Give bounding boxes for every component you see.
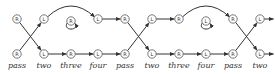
- column-label: pass: [224, 61, 242, 70]
- arc-edge: [47, 6, 94, 17]
- column-label: four: [89, 61, 108, 70]
- top-node: L: [148, 15, 156, 23]
- column-label: two: [145, 61, 160, 70]
- svg-text:R: R: [231, 51, 235, 57]
- bottom-node: R: [121, 50, 129, 58]
- svg-text:L: L: [43, 51, 46, 57]
- top-node: R: [121, 15, 129, 23]
- edges: [20, 6, 274, 54]
- svg-text:L: L: [151, 51, 154, 57]
- svg-text:R: R: [177, 16, 181, 22]
- svg-text:L: L: [205, 18, 208, 24]
- top-node: L: [94, 15, 102, 23]
- bottom-node: L: [202, 50, 210, 58]
- svg-text:L: L: [97, 16, 100, 22]
- svg-text:R: R: [69, 18, 73, 24]
- self-loop-node: L: [202, 17, 210, 25]
- svg-text:R: R: [69, 51, 73, 57]
- svg-text:R: R: [123, 16, 127, 22]
- self-loop-node: R: [67, 17, 75, 25]
- bottom-node: R: [13, 50, 21, 58]
- bottom-node: L: [148, 50, 156, 58]
- column-label: pass: [116, 61, 134, 70]
- svg-text:L: L: [43, 16, 46, 22]
- svg-text:L: L: [151, 16, 154, 22]
- top-node: L: [256, 15, 264, 23]
- svg-text:R: R: [15, 51, 19, 57]
- svg-text:R: R: [177, 51, 181, 57]
- svg-text:R: R: [123, 51, 127, 57]
- svg-text:L: L: [97, 51, 100, 57]
- bottom-node: L: [40, 50, 48, 58]
- top-node: R: [175, 15, 183, 23]
- column-label: four: [197, 61, 216, 70]
- column-label: two: [253, 61, 268, 70]
- top-node: R: [229, 15, 237, 23]
- column-label: three: [168, 61, 190, 70]
- state-transition-diagram: RRLLRRLLRRLLRRLLRRLL passtwothreefourpas…: [0, 0, 275, 74]
- bottom-node: L: [256, 50, 264, 58]
- arc-edge: [182, 6, 229, 17]
- svg-text:L: L: [259, 16, 262, 22]
- bottom-node: L: [94, 50, 102, 58]
- column-labels: passtwothreefourpasstwothreefourpasstwo: [8, 61, 268, 70]
- top-node: L: [40, 15, 48, 23]
- svg-text:L: L: [205, 51, 208, 57]
- column-label: three: [60, 61, 82, 70]
- svg-text:R: R: [231, 16, 235, 22]
- top-node: R: [13, 15, 21, 23]
- bottom-node: R: [67, 50, 75, 58]
- column-label: pass: [8, 61, 26, 70]
- column-label: two: [37, 61, 52, 70]
- bottom-node: R: [229, 50, 237, 58]
- bottom-node: R: [175, 50, 183, 58]
- svg-text:R: R: [15, 16, 19, 22]
- svg-text:L: L: [259, 51, 262, 57]
